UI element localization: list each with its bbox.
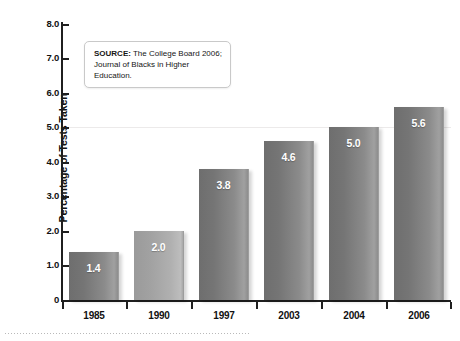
x-tick-1 <box>126 302 128 309</box>
source-annotation-box: SOURCE: The College Board 2006; Journal … <box>84 41 231 88</box>
x-tick-2 <box>191 302 193 309</box>
bar-value-1997: 3.8 <box>199 179 248 191</box>
y-tick-label-7: 7.0 <box>33 52 59 63</box>
x-tick-3 <box>256 302 258 309</box>
x-axis-label-2006: 2006 <box>387 310 451 321</box>
gridline-5 <box>63 127 451 128</box>
bar-2003[interactable]: 4.6 <box>264 141 314 300</box>
bar-value-2003: 4.6 <box>264 151 313 163</box>
y-tick-mark-8 <box>63 24 69 26</box>
bar-value-2004: 5.0 <box>329 137 378 149</box>
x-axis-label-1990: 1990 <box>127 310 191 321</box>
y-tick-label-5: 5.0 <box>33 121 59 132</box>
x-axis-label-2003: 2003 <box>257 310 321 321</box>
y-tick-label-1: 1.0 <box>33 259 59 270</box>
x-tick-4 <box>321 302 323 309</box>
y-tick-mark-4 <box>63 162 69 164</box>
y-tick-mark-5 <box>63 127 69 129</box>
x-axis-label-1985: 1985 <box>62 310 126 321</box>
y-tick-label-4: 4.0 <box>33 156 59 167</box>
y-tick-mark-3 <box>63 196 69 198</box>
y-tick-label-8: 8.0 <box>33 18 59 29</box>
bar-1997[interactable]: 3.8 <box>199 169 249 300</box>
x-tick-6 <box>450 302 452 309</box>
source-text: The College Board 2006; <box>131 49 222 58</box>
y-tick-mark-6 <box>63 93 69 95</box>
y-tick-label-3: 3.0 <box>33 190 59 201</box>
bar-2006[interactable]: 5.6 <box>394 107 444 300</box>
source-label: SOURCE: <box>94 49 131 58</box>
bottom-dotted-rule <box>5 333 250 334</box>
y-tick-label-6: 6.0 <box>33 87 59 98</box>
bar-chart: Percentage of Tests Taken 8.0 7.0 6.0 5.… <box>0 0 460 341</box>
bar-1990[interactable]: 2.0 <box>134 231 184 300</box>
x-tick-0 <box>62 302 64 309</box>
bar-1985[interactable]: 1.4 <box>69 252 119 300</box>
x-axis-label-1997: 1997 <box>192 310 256 321</box>
x-tick-5 <box>386 302 388 309</box>
bar-value-1990: 2.0 <box>134 241 183 253</box>
bar-value-1985: 1.4 <box>69 262 118 274</box>
bar-value-2006: 5.6 <box>394 117 443 129</box>
x-axis-label-2004: 2004 <box>322 310 386 321</box>
y-tick-label-2: 2.0 <box>33 225 59 236</box>
source-text-line2: Journal of Blacks in Higher Education. <box>94 60 189 80</box>
y-tick-mark-7 <box>63 58 69 60</box>
bar-2004[interactable]: 5.0 <box>329 127 379 300</box>
y-tick-mark-2 <box>63 231 69 233</box>
y-tick-label-0: 0 <box>33 294 59 305</box>
